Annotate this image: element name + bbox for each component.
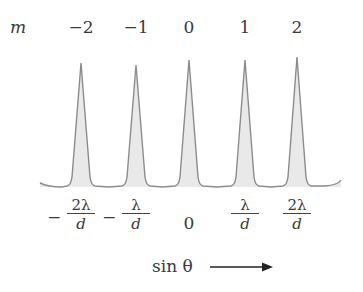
order-label-3: 1 (225, 19, 265, 36)
position-label-3: λd (231, 198, 259, 232)
position-label-4: 2λd (283, 198, 311, 232)
position-label-zero: 0 (179, 215, 199, 232)
order-label-2: 0 (169, 19, 209, 36)
order-label-4: 2 (277, 19, 317, 36)
order-label: m (10, 19, 26, 36)
intensity-plot (0, 0, 363, 292)
x-axis-label: sin θ (152, 258, 193, 275)
position-label-0: 2λd (67, 198, 95, 232)
order-label-0: −2 (61, 19, 101, 36)
negative-sign: − (47, 207, 61, 227)
negative-sign: − (102, 207, 116, 227)
x-axis-arrow (210, 263, 273, 272)
order-label-1: −1 (116, 19, 156, 36)
position-label-1: λd (122, 198, 150, 232)
